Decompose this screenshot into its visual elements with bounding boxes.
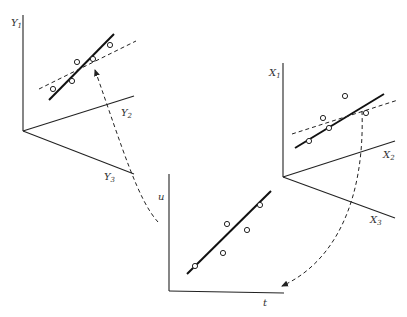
x-space-data-point xyxy=(320,115,325,120)
t-axis-label: t xyxy=(263,297,268,308)
y-space-dashed-fit-line xyxy=(39,41,136,89)
ut-data-point xyxy=(257,202,262,207)
y-space-data-point xyxy=(50,86,55,91)
y-space-solid-fit-line xyxy=(49,34,114,100)
dashed-arrow-x-space-to-ut xyxy=(282,111,362,286)
x3-axis xyxy=(283,177,395,218)
ut-data-point xyxy=(244,227,249,232)
x2-axis xyxy=(283,141,395,177)
x-space-panel: X1 X2 X3 xyxy=(268,63,398,227)
x1-axis-label: X1 xyxy=(268,67,281,80)
ut-plane-panel: u t xyxy=(158,174,284,308)
x-space-data-point xyxy=(306,138,311,143)
ut-data-point xyxy=(192,263,197,268)
y2-axis xyxy=(23,96,134,131)
ut-data-point xyxy=(220,250,225,255)
y-space-data-point xyxy=(74,59,79,64)
diagram-canvas: Y1 Y2 Y3 X1 X2 X3 xyxy=(0,0,407,317)
y3-axis-label: Y3 xyxy=(104,171,116,184)
y-space-data-point xyxy=(107,42,112,47)
x2-axis-label: X2 xyxy=(382,149,395,162)
y1-axis-label: Y1 xyxy=(11,17,22,30)
x3-axis-label: X3 xyxy=(369,214,382,227)
u-axis-label: u xyxy=(158,191,164,202)
t-axis xyxy=(169,291,284,293)
x-space-data-point xyxy=(342,93,347,98)
y2-axis-label: Y2 xyxy=(121,107,133,120)
ut-data-point xyxy=(224,221,229,226)
x-space-data-point xyxy=(363,110,368,115)
y-space-panel: Y1 Y2 Y3 xyxy=(11,15,136,184)
x-space-data-point xyxy=(326,125,331,130)
y-space-data-point xyxy=(90,56,95,61)
dashed-arrow-ut-to-y-space xyxy=(95,70,158,222)
y-space-data-point xyxy=(69,78,74,83)
y3-axis xyxy=(23,131,134,174)
